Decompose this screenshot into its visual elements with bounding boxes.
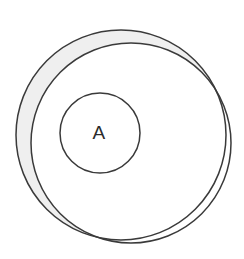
shaded-crescent-region bbox=[0, 0, 244, 259]
venn-diagram-canvas: A bbox=[0, 0, 244, 259]
region-label-a: A bbox=[93, 122, 106, 143]
venn-diagram-figure: A bbox=[0, 0, 244, 259]
